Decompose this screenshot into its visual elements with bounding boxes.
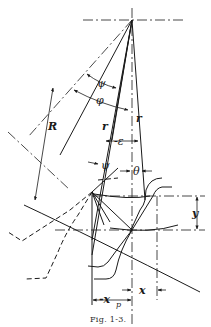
label-psi-top: ψ xyxy=(97,77,106,90)
label-y: y xyxy=(191,207,200,220)
R-dimension-line xyxy=(35,88,53,200)
label-theta: θ xyxy=(133,165,140,178)
label-psi-lower: ψ xyxy=(101,159,110,172)
dashed-rack-profile-2 xyxy=(8,192,92,241)
label-x: x xyxy=(138,284,146,297)
tooth-profile-right-2 xyxy=(132,187,172,230)
psi-lower-arrow xyxy=(88,162,98,164)
label-r-left: r xyxy=(102,120,109,133)
label-R: R xyxy=(47,120,57,133)
R-normal-line xyxy=(8,132,70,190)
dashed-rack-profile xyxy=(26,192,92,279)
dedendum-arc xyxy=(110,225,178,230)
pitch-circle-arc xyxy=(24,205,200,292)
figure-caption: Fig. 1-3. xyxy=(90,315,126,324)
label-r-right: r xyxy=(136,112,143,125)
gear-geometry-diagram: ψ φ R r r -ε ψ θ y x -x p Fig. 1-3. xyxy=(0,0,211,327)
label-phi: φ xyxy=(96,94,104,107)
label-xp: -x xyxy=(99,293,111,306)
psi-lower-dash xyxy=(98,178,118,180)
radial-line-R xyxy=(28,20,132,137)
tooth-profile-lower-1 xyxy=(88,230,132,267)
label-epsilon: -ε xyxy=(114,135,124,148)
label-xp-subscript: p xyxy=(116,300,121,309)
